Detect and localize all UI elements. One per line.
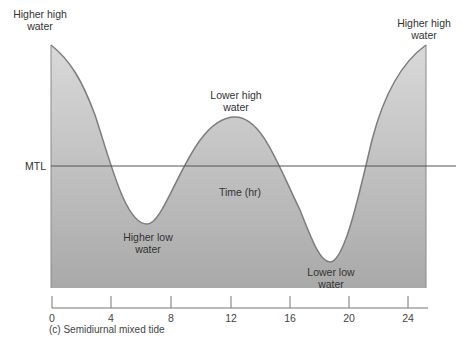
label-higher-high-water-right: Higher high water	[388, 17, 460, 41]
figure-caption: (c) Semidiurnal mixed tide	[49, 324, 165, 335]
tick-label-8: 8	[168, 312, 174, 324]
label-time-axis: Time (hr)	[210, 186, 270, 198]
tick-label-0: 0	[49, 312, 55, 324]
label-line: Lower low	[295, 266, 367, 278]
tick-label-24: 24	[402, 312, 414, 324]
label-lower-high-water: Lower high water	[200, 89, 272, 113]
tick-label-20: 20	[343, 312, 355, 324]
label-line: water	[295, 278, 367, 290]
label-line: water	[112, 243, 184, 255]
label-line: water	[388, 29, 460, 41]
label-line: Higher low	[112, 231, 184, 243]
label-line: water	[4, 20, 76, 32]
label-lower-low-water: Lower low water	[295, 266, 367, 290]
tick-label-16: 16	[284, 312, 296, 324]
label-line: Lower high	[200, 89, 272, 101]
x-axis-ticks	[52, 296, 408, 308]
label-line: Higher high	[388, 17, 460, 29]
label-line: water	[200, 101, 272, 113]
tick-label-4: 4	[108, 312, 114, 324]
label-higher-low-water: Higher low water	[112, 231, 184, 255]
label-mtl: MTL	[25, 160, 46, 172]
label-higher-high-water-left: Higher high water	[4, 8, 76, 32]
tide-chart	[0, 0, 463, 351]
label-line: Higher high	[4, 8, 76, 20]
tick-label-12: 12	[225, 312, 237, 324]
